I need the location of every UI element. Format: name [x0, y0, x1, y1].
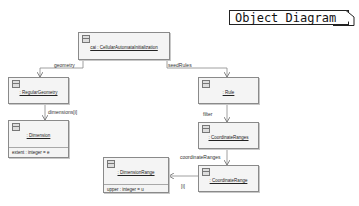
object-dimension[interactable]: : Dimension extent : integer = e: [8, 120, 69, 158]
folded-corner-icon: [333, 10, 355, 26]
object-attribute: upper : integer = u: [104, 185, 168, 195]
link-label-filter: filter: [203, 111, 212, 117]
object-name: : Dimension: [9, 133, 68, 139]
link-label-geometry: geometry: [54, 62, 75, 68]
object-diagram-canvas: Object Diagram cai : CellularAutomataIni…: [0, 0, 359, 206]
object-name: cai : CellularAutomataInitialization: [79, 45, 169, 51]
object-icon: [82, 35, 90, 43]
object-name: : Rule: [199, 90, 258, 96]
object-coordinate-ranges[interactable]: : CoordinateRanges: [198, 122, 259, 149]
object-name: : DimensionRange: [104, 170, 168, 176]
diagram-title-text: Object Diagram: [235, 11, 336, 25]
object-icon: [202, 125, 210, 133]
link-label-index: [i]: [181, 183, 185, 189]
object-name: : CoordinateRanges: [199, 135, 258, 141]
object-rule[interactable]: : Rule: [198, 77, 259, 104]
object-icon: [202, 168, 210, 176]
object-icon: [12, 123, 20, 131]
object-cai[interactable]: cai : CellularAutomataInitialization: [78, 32, 170, 60]
object-icon: [107, 160, 115, 168]
diagram-title: Object Diagram: [229, 10, 349, 25]
link-label-dimensions: dimensions[i]: [48, 109, 77, 115]
object-dimension-range[interactable]: : DimensionRange upper : integer = u: [103, 157, 169, 193]
object-regular-geometry[interactable]: : RegularGeometry: [8, 77, 69, 104]
object-name: : RegularGeometry: [9, 90, 68, 96]
object-icon: [12, 80, 20, 88]
link-label-seed-rules: seedRules: [168, 62, 192, 68]
link-label-coordinate-ranges: coordinateRanges: [180, 154, 221, 160]
object-attribute: extent : integer = e: [9, 148, 68, 158]
object-icon: [202, 80, 210, 88]
object-coordinate-range[interactable]: : CoordinateRange: [198, 165, 259, 192]
object-name: : CoordinateRange: [199, 178, 258, 184]
